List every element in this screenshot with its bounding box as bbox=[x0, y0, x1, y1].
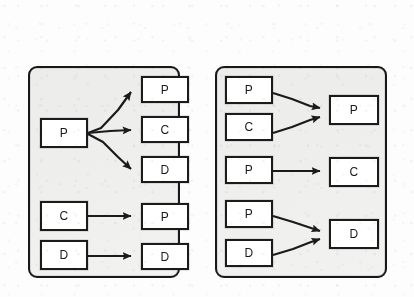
edge-layer bbox=[0, 0, 414, 297]
edge-right-p-to-p bbox=[273, 93, 320, 108]
diagram-canvas: P C D P C D P D P C P P D P C bbox=[0, 0, 414, 297]
edge-right-d-to-d bbox=[273, 239, 320, 255]
edge-right-p-to-d bbox=[273, 216, 320, 231]
edge-left-p-to-p bbox=[88, 92, 131, 133]
edge-right-c-to-p bbox=[273, 117, 320, 133]
edge-left-p-to-d bbox=[88, 134, 131, 169]
